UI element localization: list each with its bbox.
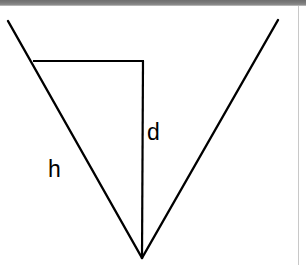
vertical-depth-line	[142, 61, 143, 258]
label-h: h	[48, 158, 61, 181]
label-d: d	[147, 121, 160, 144]
figure-canvas: h d	[0, 6, 299, 265]
right-slant-line	[142, 20, 278, 258]
screenshot-root: h d	[0, 0, 306, 265]
left-slant-line	[8, 21, 142, 258]
